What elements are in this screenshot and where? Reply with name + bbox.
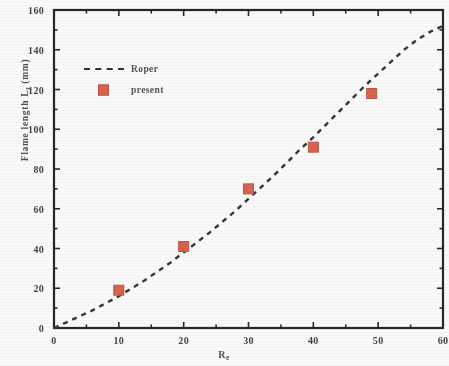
y-tick-label: 0 [0,323,44,334]
y-tick-label: 140 [0,44,44,55]
legend-label-present: present [131,85,164,95]
dashed-line-icon [84,68,124,70]
legend-label-roper: Roper [131,64,158,74]
x-tick-label: 30 [243,335,254,346]
legend-item-roper: Roper [84,58,194,79]
y-tick-label: 20 [0,283,44,294]
red-square-icon [98,84,109,95]
x-tick-label: 10 [114,335,125,346]
y-tick-label: 120 [0,84,44,95]
y-tick-label: 160 [0,5,44,16]
x-axis-title: Re [218,349,230,362]
data-point-present [244,184,254,194]
x-tick-label: 20 [178,335,189,346]
x-tick-label: 60 [438,335,449,346]
chart-legend: Roper present [84,58,194,100]
y-axis-title-unit: (mm) [20,59,30,87]
y-tick-label: 100 [0,124,44,135]
y-tick-label: 60 [0,203,44,214]
x-tick-label: 0 [51,335,56,346]
legend-item-present: present [84,79,194,100]
plot-area [0,0,449,366]
x-tick-label: 40 [308,335,319,346]
y-tick-label: 80 [0,164,44,175]
data-point-present [179,242,189,252]
data-point-present [367,88,377,98]
data-point-present [308,142,318,152]
data-point-present [114,285,124,295]
flame-length-chart: Flame length Lf (mm) Re 0204060801001201… [0,0,449,366]
y-tick-label: 40 [0,243,44,254]
x-tick-label: 50 [373,335,384,346]
x-axis-title-subscript: e [226,353,230,362]
x-axis-title-main: R [218,349,226,360]
